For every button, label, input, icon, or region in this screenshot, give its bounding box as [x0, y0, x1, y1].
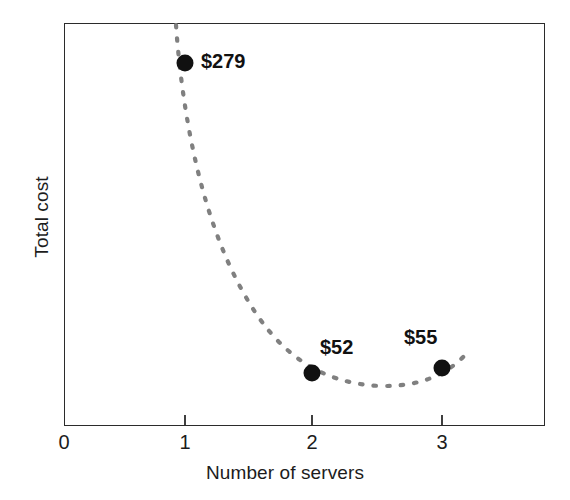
x-tick-label-1: 1: [165, 431, 205, 454]
x-axis-title: Number of servers: [0, 462, 570, 484]
data-label-279: $279: [201, 50, 246, 73]
x-tick-label-2: 2: [292, 431, 332, 454]
x-tick-label-3: 3: [422, 431, 462, 454]
chart-figure: 0 1 2 3 $279 $52 $55 Number of servers T…: [0, 0, 570, 500]
y-axis-title: Total cost: [31, 137, 53, 297]
plot-frame: [64, 23, 545, 426]
data-label-52: $52: [320, 336, 353, 359]
data-label-55: $55: [404, 326, 437, 349]
x-tick-label-0: 0: [44, 431, 84, 454]
